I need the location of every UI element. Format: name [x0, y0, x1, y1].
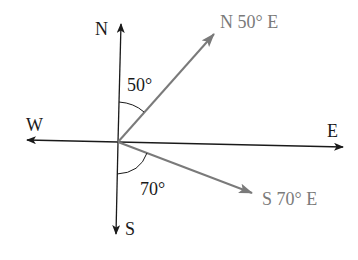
angle-arc-50 [119, 102, 144, 112]
compass-diagram [0, 0, 358, 260]
angle-label-50: 50° [127, 76, 152, 94]
west-label: W [26, 116, 43, 134]
bearing-label-n50e: N 50° E [220, 13, 278, 31]
north-axis [118, 24, 121, 142]
angle-label-70: 70° [140, 180, 165, 198]
east-label: E [327, 122, 338, 140]
south-label: S [125, 220, 135, 238]
south-axis [116, 142, 118, 234]
east-axis [118, 142, 343, 147]
north-label: N [95, 20, 108, 38]
bearing-label-s70e: S 70° E [262, 190, 317, 208]
west-axis [27, 140, 118, 142]
bearing-s70e-arrow [118, 142, 252, 193]
angle-arc-70 [117, 153, 147, 174]
